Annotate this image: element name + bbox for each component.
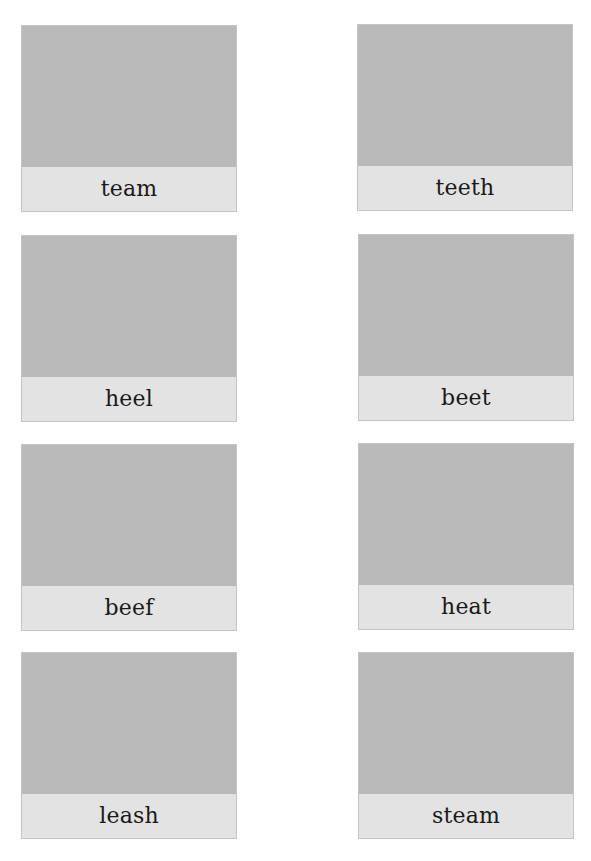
picture-placeholder [359, 653, 573, 794]
picture-placeholder [22, 653, 236, 794]
word-card-heel: heel [21, 235, 237, 422]
picture-placeholder [22, 236, 236, 377]
word-card-teeth: teeth [357, 24, 573, 211]
word-label: heel [22, 376, 236, 421]
picture-placeholder [358, 25, 572, 166]
word-label: steam [359, 793, 573, 838]
word-card-leash: leash [21, 652, 237, 839]
word-card-beet: beet [358, 234, 574, 421]
word-label: beet [359, 375, 573, 420]
word-card-steam: steam [358, 652, 574, 839]
word-label: heat [359, 584, 573, 629]
word-label: team [22, 166, 236, 211]
word-card-heat: heat [358, 443, 574, 630]
word-card-beef: beef [21, 444, 237, 631]
word-label: leash [22, 793, 236, 838]
word-label: beef [22, 585, 236, 630]
picture-placeholder [359, 444, 573, 585]
picture-placeholder [22, 26, 236, 167]
word-label: teeth [358, 165, 572, 210]
picture-placeholder [359, 235, 573, 376]
word-card-team: team [21, 25, 237, 212]
picture-placeholder [22, 445, 236, 586]
